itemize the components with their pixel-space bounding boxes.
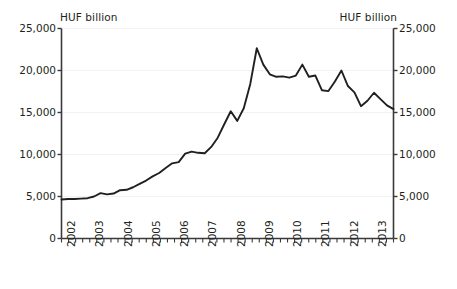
x-axis-tick-label: 2013 xyxy=(377,220,388,247)
y-axis-tick-label-right: 25,000 xyxy=(399,23,436,34)
x-axis-tick-label: 2006 xyxy=(179,220,190,247)
x-axis-tick-label: 2004 xyxy=(123,220,134,247)
y-axis-tick-label-left: 20,000 xyxy=(19,65,56,76)
y-axis-tick-label-left: 0 xyxy=(49,233,56,244)
x-axis-tick-label: 2008 xyxy=(236,220,247,247)
chart-container: HUF billion HUF billion 05,00010,00015,0… xyxy=(0,0,457,289)
x-axis-tick-label: 2010 xyxy=(292,220,303,247)
x-axis-tick-label: 2007 xyxy=(207,220,218,247)
y-axis-tick-label-right: 10,000 xyxy=(399,149,436,160)
y-axis-tick-label-left: 10,000 xyxy=(19,149,56,160)
x-axis-tick-label: 2005 xyxy=(151,220,162,247)
y-axis-tick-label-left: 5,000 xyxy=(26,191,56,202)
y-axis-tick-label-right: 0 xyxy=(399,233,406,244)
gridlines xyxy=(62,29,394,197)
x-axis-tick-label: 2002 xyxy=(66,220,77,247)
x-axis-tick-label: 2009 xyxy=(264,220,275,247)
y-axis-tick-label-left: 25,000 xyxy=(19,23,56,34)
y-axis-tick-label-right: 20,000 xyxy=(399,65,436,76)
x-axis-tick-label: 2011 xyxy=(320,220,331,247)
y-axis-tick-label-left: 15,000 xyxy=(19,107,56,118)
tick-marks xyxy=(58,29,398,243)
y-axis-tick-label-right: 5,000 xyxy=(399,191,429,202)
axis-lines xyxy=(62,29,394,239)
x-axis-tick-label: 2003 xyxy=(94,220,105,247)
x-axis-tick-label: 2012 xyxy=(349,220,360,247)
y-axis-tick-label-right: 15,000 xyxy=(399,107,436,118)
